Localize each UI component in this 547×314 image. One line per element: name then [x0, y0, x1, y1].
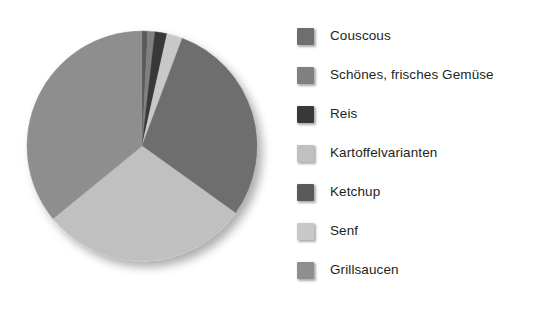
legend-swatch-ketchup — [297, 184, 314, 201]
legend-swatch-reis — [297, 106, 314, 123]
chart-legend: Couscous Schönes, frisches Gemüse Reis K… — [297, 17, 543, 297]
legend-item-schoenes-frisches-gemuese[interactable]: Schönes, frisches Gemüse — [297, 56, 543, 95]
legend-item-kartoffelvarianten[interactable]: Kartoffelvarianten — [297, 134, 543, 173]
legend-item-senf[interactable]: Senf — [297, 212, 543, 251]
pie-slices-group — [27, 31, 257, 261]
legend-label-kartoffelvarianten: Kartoffelvarianten — [330, 146, 437, 161]
pie-chart-plot-area — [12, 16, 280, 298]
legend-label-grillsaucen: Grillsaucen — [330, 263, 399, 278]
legend-swatch-schoenes-frisches-gemuese — [297, 67, 314, 84]
legend-label-senf: Senf — [330, 224, 358, 239]
legend-label-reis: Reis — [330, 107, 357, 122]
legend-swatch-senf — [297, 223, 314, 240]
legend-swatch-grillsaucen — [297, 262, 314, 279]
legend-swatch-kartoffelvarianten — [297, 145, 314, 162]
legend-item-couscous[interactable]: Couscous — [297, 17, 543, 56]
legend-swatch-couscous — [297, 28, 314, 45]
legend-label-schoenes-frisches-gemuese: Schönes, frisches Gemüse — [330, 68, 494, 83]
legend-item-reis[interactable]: Reis — [297, 95, 543, 134]
pie-chart-figure: Couscous Schönes, frisches Gemüse Reis K… — [0, 0, 547, 314]
pie-chart-svg — [12, 16, 280, 298]
legend-item-grillsaucen[interactable]: Grillsaucen — [297, 251, 543, 290]
legend-item-ketchup[interactable]: Ketchup — [297, 173, 543, 212]
legend-label-ketchup: Ketchup — [330, 185, 380, 200]
legend-label-couscous: Couscous — [330, 29, 391, 44]
